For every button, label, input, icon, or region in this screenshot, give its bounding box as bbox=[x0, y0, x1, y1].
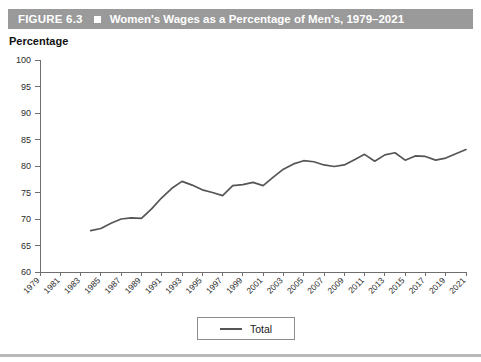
x-tick-label: 1981 bbox=[41, 275, 61, 295]
x-tick-label: 1979 bbox=[21, 275, 41, 295]
x-tick-label: 2003 bbox=[265, 275, 285, 295]
x-tick-label: 2019 bbox=[427, 275, 447, 295]
y-tick-label: 100 bbox=[16, 55, 31, 65]
x-tick-label: 2015 bbox=[386, 275, 406, 295]
legend-label-total: Total bbox=[250, 323, 272, 335]
bottom-divider bbox=[0, 354, 481, 357]
y-tick-label: 90 bbox=[21, 108, 31, 118]
x-axis-ticks: 1979198119831985198719891991199319951997… bbox=[21, 272, 467, 296]
data-line-total bbox=[91, 150, 466, 231]
y-tick-label: 70 bbox=[21, 214, 31, 224]
x-tick-label: 2011 bbox=[346, 275, 366, 295]
x-tick-label: 1989 bbox=[123, 275, 143, 295]
legend-swatch-total bbox=[220, 328, 242, 330]
x-tick-label: 2001 bbox=[244, 275, 264, 295]
chart-legend: Total bbox=[197, 317, 295, 340]
y-tick-label: 85 bbox=[21, 135, 31, 145]
x-tick-label: 2007 bbox=[305, 275, 325, 295]
x-tick-label: 2013 bbox=[366, 275, 386, 295]
y-tick-label: 95 bbox=[21, 82, 31, 92]
x-tick-label: 1995 bbox=[183, 275, 203, 295]
x-tick-label: 2009 bbox=[325, 275, 345, 295]
x-tick-label: 1993 bbox=[163, 275, 183, 295]
x-tick-label: 1987 bbox=[102, 275, 122, 295]
y-tick-label: 60 bbox=[21, 267, 31, 277]
x-tick-label: 1983 bbox=[62, 275, 82, 295]
x-tick-label: 1999 bbox=[224, 275, 244, 295]
y-tick-label: 80 bbox=[21, 161, 31, 171]
x-tick-label: 2021 bbox=[447, 275, 467, 295]
x-tick-label: 1991 bbox=[143, 275, 163, 295]
x-tick-label: 2017 bbox=[407, 275, 427, 295]
x-tick-label: 1985 bbox=[82, 275, 102, 295]
x-tick-label: 1997 bbox=[204, 275, 224, 295]
y-axis-ticks: 6065707580859095100 bbox=[16, 55, 40, 277]
x-tick-label: 2005 bbox=[285, 275, 305, 295]
y-tick-label: 75 bbox=[21, 188, 31, 198]
chart-plot-area: 6065707580859095100 19791981198319851987… bbox=[0, 0, 481, 320]
y-tick-label: 65 bbox=[21, 241, 31, 251]
figure-container: FIGURE 6.3 Women's Wages as a Percentage… bbox=[0, 0, 481, 362]
